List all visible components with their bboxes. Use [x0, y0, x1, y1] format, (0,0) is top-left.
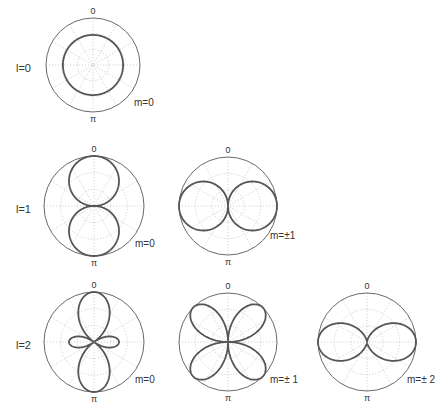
outer-circle	[46, 18, 140, 112]
grid-circle	[61, 309, 128, 376]
axis-label-pi: π	[91, 258, 97, 268]
m-label: m=± 1	[270, 374, 298, 385]
polar-plot-l2m0: 0πm=0	[44, 280, 155, 404]
m-label: m=0	[135, 374, 155, 385]
polar-plot-l0m0: 0πm=0	[46, 6, 154, 124]
row-label-l1: l=1	[16, 203, 31, 215]
m-label: m=0	[134, 97, 154, 108]
row-labels: l=0 l=1 l=2	[16, 62, 31, 351]
axis-label-zero: 0	[225, 145, 230, 155]
axis-label-pi: π	[90, 114, 96, 124]
harmonic-curve	[63, 35, 123, 95]
axis-label-pi: π	[225, 257, 231, 267]
axis-label-zero: 0	[90, 6, 95, 16]
axis-label-pi: π	[225, 393, 231, 403]
axis-label-pi: π	[91, 394, 97, 404]
polar-plot-l2m2: 0πm=± 2	[318, 281, 435, 403]
polar-plot-l1m1: 0πm=±1	[179, 145, 296, 267]
harmonic-curve	[318, 323, 416, 361]
polar-plot-l2m1: 0πm=± 1	[179, 281, 298, 403]
m-label: m=0	[135, 238, 155, 249]
m-label: m=±1	[270, 230, 296, 241]
spherical-harmonics-figure: l=0 l=1 l=2 0πm=00πm=00πm=±10πm=00πm=± 1…	[0, 0, 438, 412]
axis-label-zero: 0	[91, 280, 96, 290]
axis-label-zero: 0	[364, 281, 369, 291]
polar-plots: 0πm=00πm=00πm=±10πm=00πm=± 10πm=± 2	[44, 6, 435, 404]
m-label: m=± 2	[407, 374, 435, 385]
axis-label-pi: π	[364, 393, 370, 403]
axis-label-zero: 0	[91, 144, 96, 154]
polar-plot-l1m0: 0πm=0	[44, 144, 155, 268]
row-label-l0: l=0	[16, 62, 31, 74]
row-label-l2: l=2	[16, 339, 31, 351]
axis-label-zero: 0	[225, 281, 230, 291]
